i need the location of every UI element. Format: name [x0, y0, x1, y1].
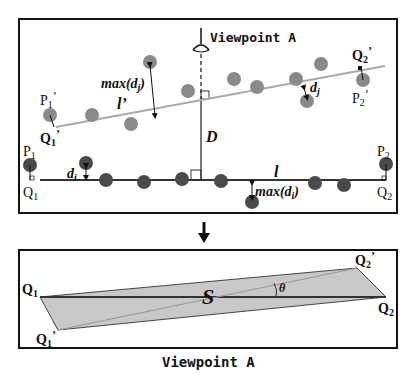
label-d-i: di [67, 166, 77, 183]
caption: Viewpoint A [162, 354, 255, 370]
label-d-j: dj [310, 80, 320, 97]
label-Q2-prime: Q2’ [352, 44, 372, 65]
label-P2-prime: P2’ [352, 87, 369, 108]
down-arrow-icon [198, 222, 210, 243]
diagram-canvas: Viewpoint A [0, 0, 415, 382]
right-angle-mark [201, 91, 209, 99]
label-theta: θ [279, 281, 286, 295]
label-bottom-Q2: Q2 [378, 301, 394, 318]
label-P1-prime: P1’ [40, 89, 57, 110]
label-bottom-Q2-prime: Q2’ [355, 249, 375, 270]
right-angle-mark [191, 170, 201, 180]
light-points [43, 55, 370, 131]
label-P1: P1 [23, 144, 36, 161]
dark-points [23, 156, 393, 209]
label-P2: P2 [377, 144, 390, 161]
label-max-d-i: max(di) [255, 184, 299, 201]
label-max-d-j: max(dj) [101, 76, 145, 93]
label-l: l [274, 163, 279, 180]
label-l-prime: l’ [117, 95, 127, 112]
label-bottom-Q1: Q1 [22, 282, 38, 299]
viewpoint-label: Viewpoint A [210, 30, 296, 45]
label-bottom-Q1-prime: Q1’ [36, 328, 56, 349]
label-S: S [202, 284, 214, 309]
label-Q1-prime: Q1’ [40, 127, 60, 148]
label-Q1: Q1 [23, 185, 38, 202]
label-Q2: Q2 [377, 185, 392, 202]
eye-icon [193, 28, 209, 52]
label-D: D [205, 128, 218, 145]
